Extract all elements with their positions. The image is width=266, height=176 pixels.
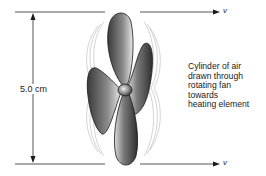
fan-blade-top	[108, 13, 133, 86]
fan-hub	[118, 84, 132, 96]
velocity-label-top: v	[223, 6, 227, 15]
bottom-arrowhead-icon	[213, 162, 220, 167]
velocity-label-bottom: v	[223, 158, 227, 167]
caption: Cylinder of air drawn through rotating f…	[188, 62, 249, 110]
caption-line: heating element	[188, 100, 249, 110]
top-arrowhead-icon	[213, 10, 220, 15]
dimension-arrowhead-top-icon	[31, 13, 36, 20]
dimension-arrowhead-bottom-icon	[31, 156, 36, 163]
dimension-label: 5.0 cm	[19, 84, 48, 94]
